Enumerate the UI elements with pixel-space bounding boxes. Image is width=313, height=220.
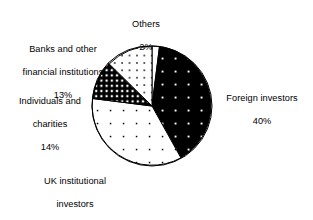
pie-label-foreign-value: 40% [212,116,312,127]
pie-label-banks-text-line2: financial institutions [4,67,122,78]
pie-label-individuals-text-line2: charities [2,119,98,130]
pie-label-individuals-and-charities: Individuals and charities 14% [2,85,98,165]
pie-label-uk-text-line2: investors [18,199,132,210]
pie-label-individuals-text-line1: Individuals and [2,96,98,107]
pie-label-individuals-value: 14% [2,142,98,153]
pie-chart-figure: Others 2% Banks and other financial inst… [0,0,313,220]
pie-label-foreign-investors: Foreign investors 40% [212,82,312,139]
pie-label-foreign-text: Foreign investors [212,93,312,104]
pie-label-uk-text-line1: UK institutional [18,176,132,187]
pie-label-others-text: Others [104,19,188,30]
pie-label-uk-institutional-investors: UK institutional investors 31% [18,165,132,220]
pie-label-banks-text-line1: Banks and other [4,44,122,55]
